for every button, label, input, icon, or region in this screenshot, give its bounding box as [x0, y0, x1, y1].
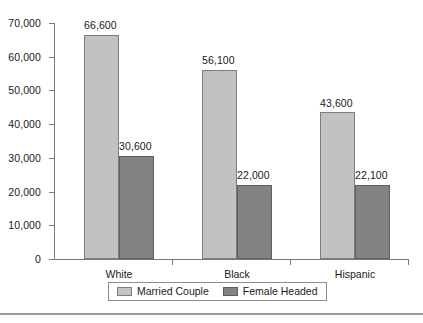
y-tick-label-70000: 70,000: [8, 17, 41, 29]
y-tick-label-40000: 40,000: [8, 118, 41, 130]
bar-married-couple-hispanic: [320, 112, 355, 259]
y-tick-0: 0: [49, 259, 54, 260]
y-tick-20000: 20,000: [49, 192, 54, 193]
legend-swatch-female-headed-icon: [223, 287, 238, 296]
bar-label-female-headed-white: 30,600: [119, 140, 152, 152]
x-tick-sep-3: [408, 259, 409, 265]
y-tick-label-30000: 30,000: [8, 152, 41, 164]
y-tick-label-0: 0: [35, 253, 41, 265]
y-tick-60000: 60,000: [49, 57, 54, 58]
legend-swatch-married-couple-icon: [117, 287, 132, 296]
legend-label-female-headed: Female Headed: [243, 285, 318, 297]
y-tick-label-10000: 10,000: [8, 219, 41, 231]
y-tick-50000: 50,000: [49, 90, 54, 91]
legend-item-married-couple: Married Couple: [117, 285, 209, 297]
bar-female-headed-black: [237, 185, 272, 259]
x-tick-sep-2: [290, 259, 291, 265]
bar-female-headed-white: [119, 156, 154, 259]
y-tick-40000: 40,000: [49, 124, 54, 125]
x-tick-sep-1: [172, 259, 173, 265]
bar-label-married-couple-hispanic: 43,600: [320, 97, 353, 109]
legend-item-female-headed: Female Headed: [223, 285, 318, 297]
y-tick-70000: 70,000: [49, 23, 54, 24]
bar-chart-figure: 70,000 60,000 50,000 40,000 30,000 20,00…: [0, 0, 423, 323]
bar-married-couple-white: [84, 35, 119, 260]
footer-divider: [0, 313, 423, 315]
bar-label-married-couple-black: 56,100: [202, 54, 235, 66]
y-tick-30000: 30,000: [49, 158, 54, 159]
chart-legend: Married Couple Female Headed: [108, 282, 327, 301]
y-axis-line: [54, 23, 55, 259]
y-tick-10000: 10,000: [49, 225, 54, 226]
bar-married-couple-black: [202, 70, 237, 259]
plot-area: 70,000 60,000 50,000 40,000 30,000 20,00…: [54, 23, 409, 259]
x-axis-category-label-black: Black: [224, 268, 250, 280]
x-axis-category-label-hispanic: Hispanic: [335, 268, 375, 280]
bar-label-female-headed-hispanic: 22,100: [355, 169, 388, 181]
y-tick-label-20000: 20,000: [8, 186, 41, 198]
x-axis-line: [54, 259, 409, 260]
bar-female-headed-hispanic: [355, 185, 390, 260]
bar-label-female-headed-black: 22,000: [237, 169, 270, 181]
y-tick-label-50000: 50,000: [8, 84, 41, 96]
x-axis-category-label-white: White: [106, 268, 133, 280]
bar-label-married-couple-white: 66,600: [84, 19, 117, 31]
y-tick-label-60000: 60,000: [8, 51, 41, 63]
legend-label-married-couple: Married Couple: [137, 285, 209, 297]
